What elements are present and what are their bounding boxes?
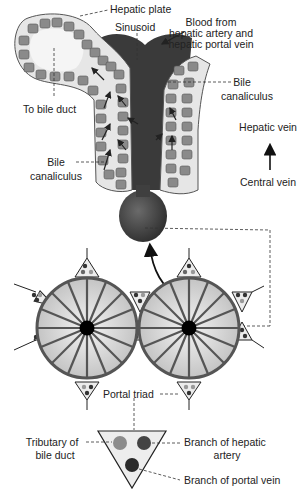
label-hepatic-artery-1: Branch of hepatic <box>184 436 266 448</box>
label-bile-canaliculus-left-1: Bile <box>47 156 65 168</box>
bile-duct-tributary-dot <box>113 436 127 450</box>
label-bile-canaliculus-right-2: canaliculus <box>221 90 273 102</box>
lobule-right <box>139 278 239 378</box>
portal-triad-detail <box>86 431 180 488</box>
label-hepatic-artery-2: artery <box>214 449 242 461</box>
label-to-bile-duct: To bile duct <box>23 103 76 115</box>
label-hepatic-plate: Hepatic plate <box>110 3 171 15</box>
liver-lobule-diagram: Hepatic plate Sinusoid Blood from hepati… <box>0 0 302 494</box>
label-tributary-1: Tributary of <box>26 436 79 448</box>
label-sinusoid: Sinusoid <box>115 21 155 33</box>
portal-vein-branch-dot <box>125 458 139 472</box>
central-vein-left <box>80 321 95 336</box>
lobules <box>14 248 264 410</box>
label-portal-vein: Branch of portal vein <box>184 474 280 486</box>
central-vein-bulb <box>119 190 167 242</box>
central-vein-right <box>182 321 197 336</box>
lobule-left <box>37 278 137 378</box>
label-blood-from-3: hepatic portal vein <box>168 38 253 50</box>
central-vein-neck <box>136 185 150 197</box>
label-central-vein: Central vein <box>240 176 296 188</box>
hepatic-artery-branch-dot <box>137 436 151 450</box>
label-portal-triad: Portal triad <box>103 388 154 400</box>
label-bile-canaliculus-right-1: Bile <box>233 76 251 88</box>
label-tributary-2: bile duct <box>35 449 74 461</box>
label-hepatic-vein: Hepatic vein <box>239 121 297 133</box>
label-bile-canaliculus-left-2: canaliculus <box>30 170 82 182</box>
